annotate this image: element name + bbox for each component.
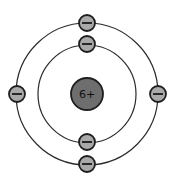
electron-outer-bottom <box>79 156 95 172</box>
electron-outer-right <box>150 86 166 102</box>
electron-inner-top <box>79 36 95 52</box>
nucleus-charge-label: 6+ <box>79 88 95 101</box>
electron-outer-left <box>9 86 25 102</box>
electron-outer-top <box>79 15 95 31</box>
nucleus: 6+ <box>71 78 103 110</box>
electron-inner-bottom <box>79 134 95 150</box>
atom-diagram: 6+ <box>0 0 178 184</box>
